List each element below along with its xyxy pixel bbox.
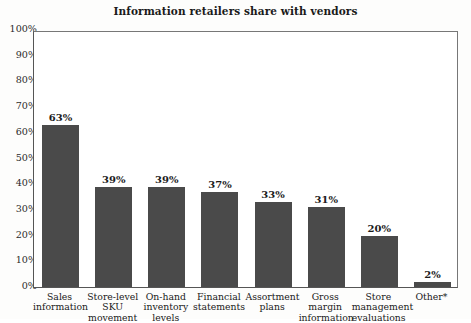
bar-item: 39%: [148, 30, 185, 287]
x-axis-category-label: Gross margininformation: [299, 292, 352, 323]
bar-item: 20%: [361, 30, 398, 287]
x-axis-category-label: Storemanagementevaluations: [352, 292, 405, 323]
bar-item: 39%: [95, 30, 132, 287]
bar-item: 31%: [308, 30, 345, 287]
x-axis-category-label: Other*: [405, 292, 458, 302]
chart-title: Information retailers share with vendors: [0, 5, 471, 17]
bar: [42, 125, 79, 287]
bar: [95, 187, 132, 287]
bar-value-label: 33%: [243, 189, 303, 200]
plot-area: 63%39%39%37%33%31%20%2%: [33, 31, 458, 288]
x-axis-category-label: Assortmentplans: [246, 292, 299, 313]
bar-value-label: 39%: [137, 174, 197, 185]
x-axis-category-line: statements: [192, 302, 245, 312]
bar-item: 63%: [42, 30, 79, 287]
bar-value-label: 31%: [296, 194, 356, 205]
y-axis-tick: 0%: [0, 288, 42, 289]
x-axis-category-label: On-handinventorylevels: [139, 292, 192, 323]
x-axis-category-line: plans: [246, 302, 299, 312]
bar: [361, 236, 398, 287]
x-axis-category-line: information: [33, 302, 86, 312]
x-axis-category-line: movement: [86, 313, 139, 323]
x-axis-category-label: Store-levelSKUmovement: [86, 292, 139, 323]
bar: [148, 187, 185, 287]
x-axis-category-line: Other*: [405, 292, 458, 302]
x-axis-category-label: Salesinformation: [33, 292, 86, 313]
bar-value-label: 39%: [84, 174, 144, 185]
bar: [308, 207, 345, 287]
bar: [255, 202, 292, 287]
x-axis-category-line: evaluations: [352, 313, 405, 323]
x-axis-category-line: information: [299, 313, 352, 323]
x-axis-category-label: Financialstatements: [192, 292, 245, 313]
bar-value-label: 2%: [402, 269, 462, 280]
bar-item: 37%: [201, 30, 238, 287]
bar-value-label: 37%: [190, 179, 250, 190]
bar-value-label: 63%: [31, 112, 91, 123]
bar-value-label: 20%: [349, 223, 409, 234]
bar: [414, 282, 451, 287]
x-axis-category-line: levels: [139, 313, 192, 323]
x-axis-category-line: Gross margin: [299, 292, 352, 313]
bar-item: 2%: [414, 30, 451, 287]
bar-item: 33%: [255, 30, 292, 287]
bar: [201, 192, 238, 287]
